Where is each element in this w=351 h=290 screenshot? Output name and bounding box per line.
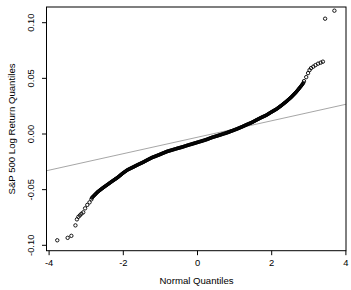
data-point: [74, 224, 77, 227]
y-axis-title: S&P 500 Log Return Quantiles: [6, 63, 17, 194]
x-tick-label: 0: [195, 257, 200, 268]
lower-tail-points: [56, 198, 94, 242]
data-point: [56, 239, 59, 242]
y-tick-label: 0.05: [25, 69, 36, 87]
x-tick-label: 2: [269, 257, 274, 268]
y-tick-label: 0.00: [25, 125, 36, 143]
data-point: [66, 236, 69, 239]
y-tick-label: -0.10: [25, 235, 36, 256]
data-point: [333, 9, 336, 12]
x-tick-label: -2: [119, 257, 127, 268]
plot-layer: -4-2024-0.10-0.050.000.050.10: [25, 7, 349, 268]
data-point: [305, 75, 308, 78]
dense-band-points: [90, 81, 305, 199]
reference-line: [47, 104, 346, 170]
x-tick-label: -4: [45, 257, 53, 268]
y-tick-label: -0.05: [25, 179, 36, 200]
y-axis-ticks: -0.10-0.050.000.050.10: [25, 14, 47, 256]
y-tick-label: 0.10: [25, 14, 36, 32]
data-point: [83, 207, 86, 210]
data-point: [323, 17, 326, 20]
x-axis-title: Normal Quantiles: [159, 275, 233, 286]
x-tick-label: 4: [343, 257, 348, 268]
upper-tail-points: [302, 9, 336, 83]
qq-plot-figure: -4-2024-0.10-0.050.000.050.10 Normal Qua…: [0, 0, 351, 290]
data-point: [70, 234, 73, 237]
plot-box: [47, 7, 347, 251]
x-axis-ticks: -4-2024: [45, 251, 349, 268]
qq-plot-canvas: -4-2024-0.10-0.050.000.050.10 Normal Qua…: [0, 0, 351, 290]
